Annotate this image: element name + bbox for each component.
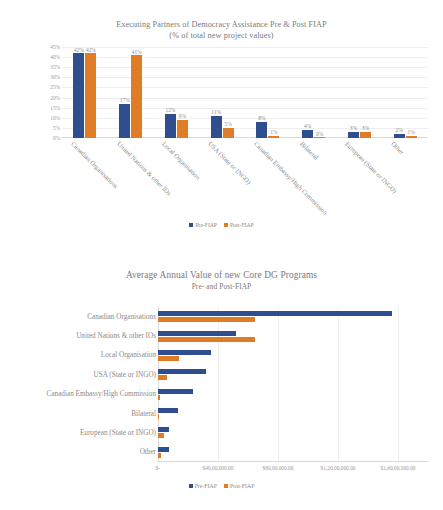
chart2-legend-label-pre: Pre-FIAP bbox=[195, 483, 217, 489]
chart2-bar-pre[interactable] bbox=[158, 311, 392, 316]
chart1-bar-pre[interactable]: 42% bbox=[73, 53, 84, 138]
chart2-x-tick: $1,20,00,000.00 bbox=[320, 465, 355, 471]
chart1-bar-group: 17%41% bbox=[108, 47, 154, 138]
chart1-y-tick: 45% bbox=[50, 44, 60, 50]
chart1-bar-post[interactable]: 1% bbox=[268, 136, 279, 138]
chart2-legend-label-post: Post-FIAP bbox=[230, 483, 254, 489]
chart1-bar-pre[interactable]: 8% bbox=[256, 122, 267, 138]
chart1-data-label: 9% bbox=[179, 113, 186, 119]
chart2-x-axis-line bbox=[158, 461, 428, 462]
chart1-y-tick: 20% bbox=[50, 95, 60, 101]
chart1-legend-item-pre[interactable]: Pre-FIAP bbox=[189, 222, 216, 228]
chart1-bar-post[interactable]: 41% bbox=[131, 55, 142, 138]
chart1-y-tick: 5% bbox=[53, 125, 60, 131]
chart2-bar-row bbox=[158, 350, 428, 361]
chart2-bar-post[interactable] bbox=[158, 356, 179, 361]
chart2-bar-row bbox=[158, 331, 428, 342]
chart1-bar-group: 42%42% bbox=[62, 47, 108, 138]
chart1-bar-pre[interactable]: 2% bbox=[394, 134, 405, 138]
chart2-category-label: Bilateral bbox=[131, 410, 156, 418]
chart1-bar-group: 4%0% bbox=[291, 47, 337, 138]
chart2-bar-post[interactable] bbox=[158, 395, 160, 400]
chart2-bar-pre[interactable] bbox=[158, 389, 193, 394]
legend-swatch-pre-icon bbox=[189, 223, 193, 227]
legend-swatch-post-icon bbox=[224, 223, 228, 227]
chart2-bar-post[interactable] bbox=[158, 453, 161, 458]
chart1-bar-post[interactable]: 9% bbox=[177, 120, 188, 138]
chart1-bar-pre[interactable]: 17% bbox=[119, 104, 130, 138]
chart2-bar-post[interactable] bbox=[158, 317, 255, 322]
chart1-category-labels: Canadian OrganisationsUnited Nations & o… bbox=[62, 140, 428, 220]
chart2-bar-row bbox=[158, 447, 428, 458]
chart1-data-label: 3% bbox=[350, 125, 357, 131]
chart2-legend-item-pre[interactable]: Pre-FIAP bbox=[189, 483, 217, 489]
chart1-data-label: 1% bbox=[270, 129, 277, 135]
chart2-bar-post[interactable] bbox=[158, 375, 167, 380]
chart2-bar-pre[interactable] bbox=[158, 447, 169, 452]
chart2-bar-pre[interactable] bbox=[158, 331, 236, 336]
chart-executing-partners: Executing Partners of Democracy Assistan… bbox=[0, 0, 443, 250]
chart1-bar-pre[interactable]: 4% bbox=[302, 130, 313, 138]
chart1-bar-post[interactable]: 3% bbox=[360, 132, 371, 138]
chart1-bar-groups: 42%42%17%41%12%9%11%5%8%1%4%0%3%3%2%1% bbox=[62, 47, 428, 138]
chart1-title: Executing Partners of Democracy Assistan… bbox=[116, 20, 326, 29]
chart1-bar-post[interactable]: 1% bbox=[406, 136, 417, 138]
chart2-bar-post[interactable] bbox=[158, 433, 164, 438]
chart1-y-tick: 40% bbox=[50, 54, 60, 60]
chart2-bar-row bbox=[158, 311, 428, 322]
chart2-bar-pre[interactable] bbox=[158, 350, 211, 355]
chart1-bar-post[interactable]: 5% bbox=[223, 128, 234, 138]
chart1-data-label: 42% bbox=[86, 47, 96, 53]
chart2-bar-pre[interactable] bbox=[158, 408, 178, 413]
chart2-category-label: Canadian Embassy/High Commission bbox=[47, 390, 156, 398]
chart1-data-label: 0% bbox=[316, 131, 323, 137]
chart1-legend: Pre-FIAP Post-FIAP bbox=[0, 222, 443, 228]
chart2-plot-area: $-$40,00,000.00$80,00,000.00$1,20,00,000… bbox=[158, 307, 428, 462]
chart1-data-label: 11% bbox=[211, 109, 221, 115]
chart2-title-block: Average Annual Value of new Core DG Prog… bbox=[0, 255, 443, 293]
chart1-y-tick: 25% bbox=[50, 84, 60, 90]
chart2-x-axis-labels: $-$40,00,000.00$80,00,000.00$1,20,00,000… bbox=[158, 465, 428, 477]
chart1-plot-area: 42%42%17%41%12%9%11%5%8%1%4%0%3%3%2%1% bbox=[62, 47, 428, 138]
chart2-x-tick: $1,60,00,000.00 bbox=[380, 465, 415, 471]
chart2-bar-post[interactable] bbox=[158, 414, 159, 419]
chart1-data-label: 3% bbox=[362, 125, 369, 131]
chart1-category-label: Local Organisation bbox=[161, 140, 202, 181]
chart2-category-label: Local Organisation bbox=[101, 351, 156, 359]
chart1-bar-pre[interactable]: 11% bbox=[211, 116, 222, 138]
chart1-data-label: 42% bbox=[74, 47, 84, 53]
chart2-bar-pre[interactable] bbox=[158, 427, 169, 432]
chart1-data-label: 8% bbox=[258, 115, 265, 121]
chart1-title-block: Executing Partners of Democracy Assistan… bbox=[0, 0, 443, 41]
chart1-subtitle: (% of total new project values) bbox=[0, 30, 443, 41]
chart1-legend-item-post[interactable]: Post-FIAP bbox=[224, 222, 254, 228]
chart1-category-label: Bilateral bbox=[299, 140, 320, 161]
chart2-bar-row bbox=[158, 369, 428, 380]
chart1-category-label: European (State or INGO) bbox=[344, 140, 398, 194]
chart1-data-label: 17% bbox=[120, 97, 130, 103]
chart1-data-label: 41% bbox=[132, 49, 142, 55]
chart2-bar-row bbox=[158, 408, 428, 419]
chart2-x-tick: $- bbox=[156, 465, 161, 471]
chart2-bar-row bbox=[158, 389, 428, 400]
chart1-bar-group: 3%3% bbox=[337, 47, 383, 138]
chart1-data-label: 1% bbox=[408, 129, 415, 135]
chart2-x-tick: $80,00,000.00 bbox=[263, 465, 294, 471]
chart1-data-label: 2% bbox=[396, 127, 403, 133]
chart1-bar-group: 12%9% bbox=[154, 47, 200, 138]
chart1-legend-label-post: Post-FIAP bbox=[230, 222, 254, 228]
chart1-y-tick: 35% bbox=[50, 64, 60, 70]
chart2-subtitle: Pre- and Post-FIAP bbox=[0, 281, 443, 293]
chart2-category-label: European (State or INGO) bbox=[80, 429, 156, 437]
chart1-bar-pre[interactable]: 3% bbox=[348, 132, 359, 138]
chart2-bar-post[interactable] bbox=[158, 337, 255, 342]
chart2-legend-item-post[interactable]: Post-FIAP bbox=[224, 483, 254, 489]
chart1-bar-pre[interactable]: 12% bbox=[165, 114, 176, 138]
chart1-bar-post[interactable]: 0% bbox=[314, 137, 325, 138]
chart1-data-label: 5% bbox=[225, 121, 232, 127]
legend-swatch-post-icon bbox=[224, 484, 228, 488]
chart2-legend: Pre-FIAP Post-FIAP bbox=[0, 483, 443, 489]
chart2-bar-pre[interactable] bbox=[158, 369, 206, 374]
chart1-bar-post[interactable]: 42% bbox=[85, 53, 96, 138]
chart1-bar-group: 11%5% bbox=[199, 47, 245, 138]
